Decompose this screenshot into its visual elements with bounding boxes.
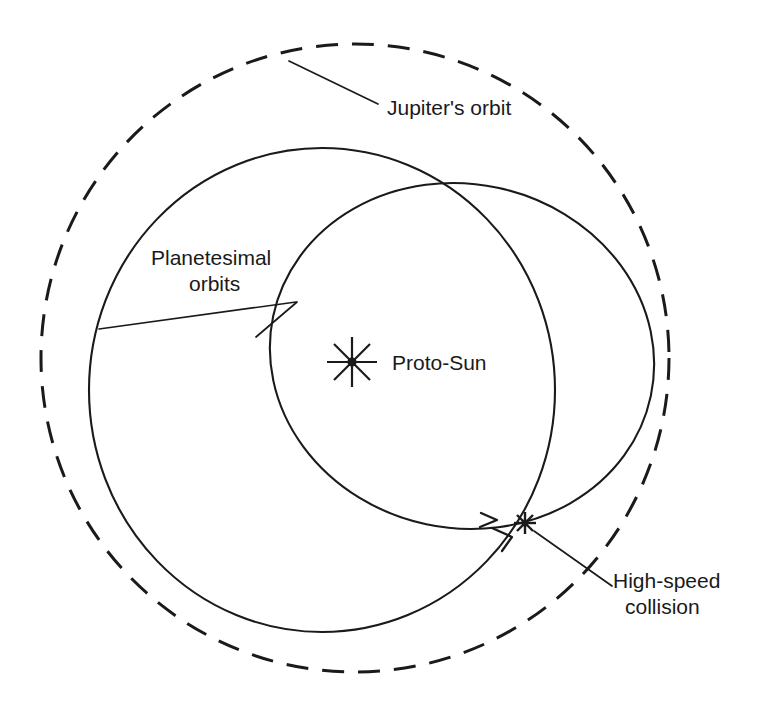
label-collision-line2: collision <box>625 595 700 618</box>
planetesimal-orbit-outer <box>89 148 555 632</box>
arrowhead-icon-outer-orbit <box>492 528 512 551</box>
label-planetesimal-orbits-line2: orbits <box>189 272 240 295</box>
label-collision-line1: High-speed <box>613 569 720 592</box>
label-planetesimal-orbits-line1: Planetesimal <box>151 246 271 269</box>
label-proto-sun: Proto-Sun <box>392 351 487 374</box>
label-jupiters-orbit: Jupiter's orbit <box>387 96 511 119</box>
leader-line-jupiters-orbit <box>289 61 378 104</box>
arrowhead-icon-inner-orbit <box>480 513 497 527</box>
leader-line-planetesimal-outer <box>99 302 296 329</box>
sunburst-icon-proto-sun <box>327 337 377 387</box>
orbit-diagram: Jupiter's orbit Planetesimal orbits Prot… <box>0 0 760 701</box>
leader-line-collision <box>534 531 612 586</box>
diagram-canvas: Jupiter's orbit Planetesimal orbits Prot… <box>0 0 760 701</box>
starburst-icon-collision <box>514 512 536 534</box>
